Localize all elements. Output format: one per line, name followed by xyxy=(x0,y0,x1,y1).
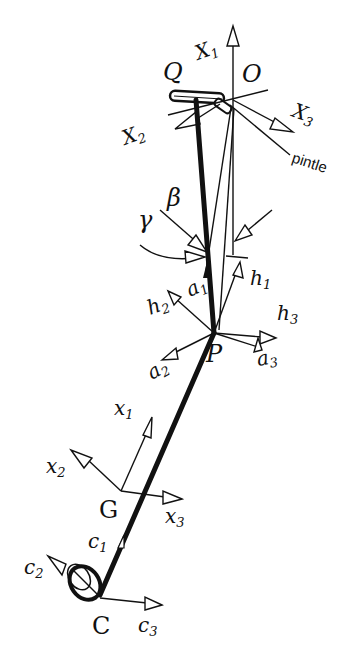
label-x2-local: x2 xyxy=(46,454,66,480)
pintle-force-arrow xyxy=(235,210,272,241)
g-frame xyxy=(71,417,182,504)
label-c3: c3 xyxy=(138,613,157,639)
c1-arrow xyxy=(118,535,124,548)
label-pintle: pintle xyxy=(290,149,329,176)
c3-axis xyxy=(100,597,162,610)
label-c: C xyxy=(92,612,110,640)
pintle-bar-assembly xyxy=(170,91,233,115)
mechanism-diagram: Q O X1 X2 X3 pintle β γ a1 h1 h2 h3 P a2… xyxy=(0,0,356,666)
label-c1: c1 xyxy=(88,529,107,555)
c-wheel xyxy=(63,560,107,606)
label-beta: β xyxy=(166,184,181,212)
label-h3: h3 xyxy=(277,301,298,327)
label-x1: X1 xyxy=(190,34,222,67)
label-a3: a3 xyxy=(255,344,279,373)
label-gamma: γ xyxy=(138,206,153,234)
x1-axis xyxy=(227,26,239,255)
label-g: G xyxy=(99,496,118,524)
label-h1: h1 xyxy=(250,266,271,292)
h3-axis xyxy=(214,331,276,344)
label-c2: c2 xyxy=(24,555,43,581)
label-x1-local: x1 xyxy=(114,396,134,422)
label-p: P xyxy=(205,340,223,368)
label-q: Q xyxy=(163,58,183,86)
label-h2: h2 xyxy=(144,290,173,322)
c2-axis xyxy=(48,556,66,575)
label-o: O xyxy=(242,60,262,88)
label-x2: X2 xyxy=(117,119,149,152)
o-to-p-line-1 xyxy=(206,108,231,270)
label-x3: X3 xyxy=(287,97,319,130)
x3-axis xyxy=(233,100,293,132)
label-x3-local: x3 xyxy=(165,504,185,530)
beta-arrow xyxy=(160,210,207,252)
